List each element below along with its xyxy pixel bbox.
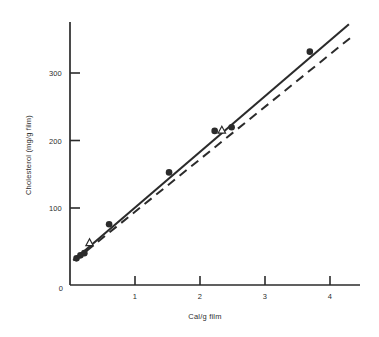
data-point-filled-circle [228,124,235,131]
y-tick-label-100: 100 [49,204,62,213]
data-point-filled-circle [166,169,173,176]
data-point-filled-circle [106,221,113,228]
y-tick-label-200: 200 [49,137,62,146]
data-point-filled-circle [211,128,218,135]
chart-background [0,0,379,337]
x-tick-label-2: 2 [198,292,202,301]
x-tick-label-3: 3 [263,292,267,301]
y-tick-label-300: 300 [49,69,62,78]
x-tick-label-1: 1 [133,292,137,301]
data-point-filled-circle [307,48,314,55]
y-tick-label-0: 0 [59,284,63,293]
x-axis-label: Cal/g film [188,312,221,321]
y-axis-label: Cholesterol (mg/g film) [24,115,33,195]
chart-figure: 300 200 100 0 1 2 3 4 Cholesterol (mg/g … [0,0,379,337]
data-point-filled-circle [81,250,88,257]
x-tick-label-4: 4 [328,292,332,301]
